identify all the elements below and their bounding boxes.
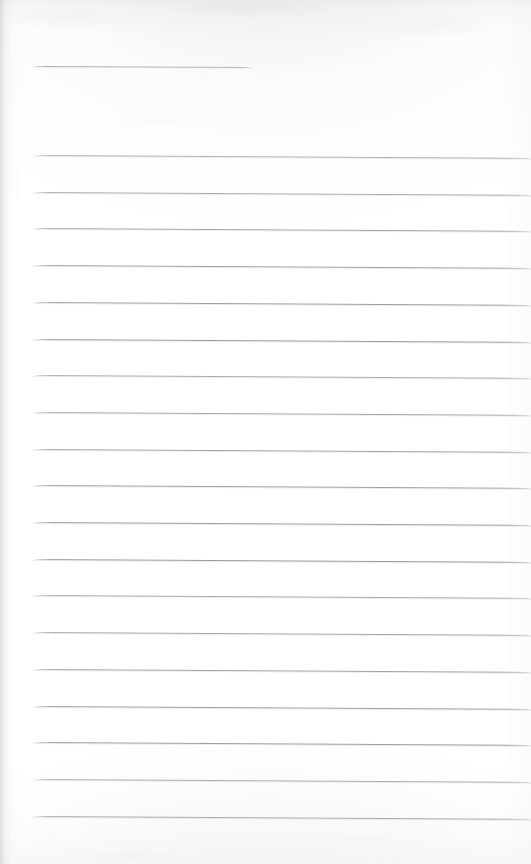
scanned-page [0,0,531,864]
page-title [36,44,251,64]
page-body-text [36,130,527,824]
title-underline-rule [33,66,253,68]
